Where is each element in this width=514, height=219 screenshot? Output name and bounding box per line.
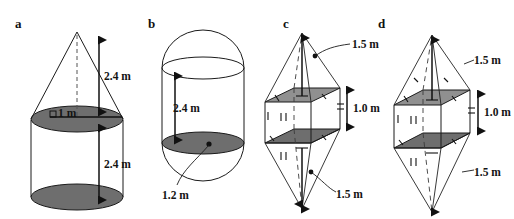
panel-a-letter: a xyxy=(15,16,22,31)
panel-d-prism-bottom-face xyxy=(394,133,470,148)
panel-b-diameter-anchor-dot xyxy=(206,141,211,146)
panel-b-letter: b xyxy=(148,16,155,31)
panel-d-bottom-pyramid-edge-1 xyxy=(394,148,432,212)
panel-c-bottom-pyramid-height-label: 1.5 m xyxy=(336,188,363,200)
panel-c: c xyxy=(265,16,380,209)
panel-b: b 2.4 m 1.2 m xyxy=(148,16,244,201)
geometry-figure-panel-group: a 1 m 2.4 m 2.4 m xyxy=(0,0,514,219)
panel-d-top-label-leader xyxy=(464,60,474,64)
panel-c-prism-bottom-face xyxy=(265,129,340,143)
panel-c-top-label-leader xyxy=(315,44,350,56)
panel-d-prism-height-label: 1.0 m xyxy=(484,106,511,118)
panel-c-letter: c xyxy=(283,16,289,31)
panel-d: d 1.5 xyxy=(378,16,511,212)
panel-d-bottom-label-leader xyxy=(462,170,474,172)
panel-a: a 1 m 2.4 m 2.4 m xyxy=(15,16,131,210)
panel-c-top-pyramid-height-label: 1.5 m xyxy=(352,38,379,50)
panel-d-letter: d xyxy=(378,16,386,31)
panel-a-cylinder-base-ellipse xyxy=(31,184,123,210)
panel-a-cone-height-label: 2.4 m xyxy=(104,70,131,82)
panel-c-prism-height-label: 1.0 m xyxy=(353,102,380,114)
panel-b-diameter-label: 1.2 m xyxy=(162,189,189,201)
panel-d-tick-pyr-left xyxy=(414,78,418,82)
panel-b-top-rim-ellipse xyxy=(162,57,244,79)
panel-a-cylinder-height-label: 2.4 m xyxy=(104,158,131,170)
panel-b-cylinder-height-label: 2.4 m xyxy=(173,102,200,114)
panel-c-bottom-pyramid-edge-1 xyxy=(265,143,302,209)
panel-d-bottom-pyramid-height-label: 1.5 m xyxy=(474,166,501,178)
panel-a-radius-label: 1 m xyxy=(58,107,77,119)
panel-d-tick-pyr-right xyxy=(444,78,448,82)
panel-a-cone-base-ellipse xyxy=(31,106,123,132)
panel-d-top-pyramid-height-label: 1.5 m xyxy=(474,54,501,66)
